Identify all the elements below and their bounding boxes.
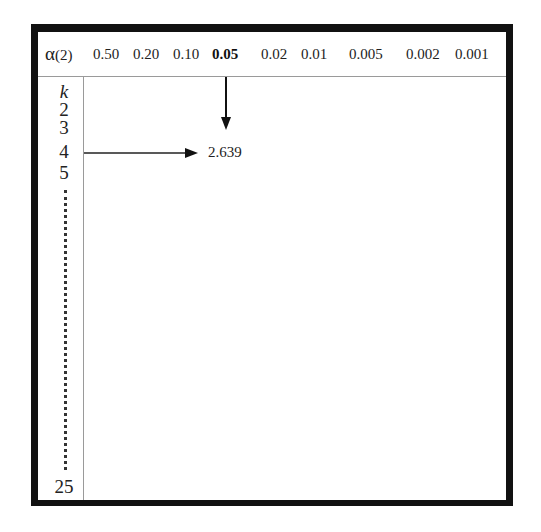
- critical-value-table: α(2) 0.50 0.20 0.10 0.05 0.02 0.01 0.005…: [31, 24, 513, 506]
- down-arrow-icon: [221, 77, 231, 130]
- right-arrow-icon: [84, 148, 198, 158]
- lookup-arrows: [38, 32, 506, 500]
